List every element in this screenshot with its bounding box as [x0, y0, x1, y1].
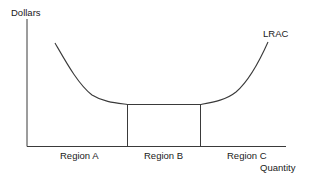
lrac-chart: Dollars LRAC Region A Region B Region C …	[0, 0, 314, 180]
x-axis-label: Quantity	[260, 163, 295, 173]
curve-label: LRAC	[263, 29, 288, 39]
region-a-label: Region A	[60, 151, 99, 161]
lrac-curve	[55, 42, 268, 105]
y-axis-label: Dollars	[11, 8, 41, 18]
region-c-label: Region C	[227, 151, 267, 161]
region-b-label: Region B	[144, 151, 183, 161]
